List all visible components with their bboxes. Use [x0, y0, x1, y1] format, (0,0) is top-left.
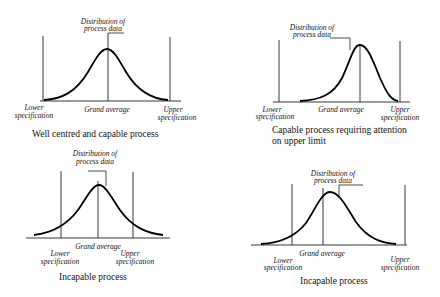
upper-spec-label-line2: specification	[158, 113, 197, 122]
distribution-curve	[34, 185, 163, 235]
distribution-leader	[339, 185, 363, 198]
caption-line1: Capable process requiring attention	[272, 125, 407, 135]
upper-spec-label-line2: specification	[381, 113, 420, 122]
lower-spec-label-line2: specification	[15, 111, 54, 120]
grand-average-label: Grand average	[299, 249, 345, 258]
grand-average-label: Grand average	[318, 105, 364, 114]
caption-line1: Well centred and capable process	[32, 129, 159, 139]
lower-spec-label-line2: specification	[41, 257, 80, 266]
distribution-label-line2: process data	[75, 157, 114, 166]
lower-spec-label-line2: specification	[256, 112, 295, 121]
distribution-curve	[44, 49, 168, 100]
distribution-leader	[330, 38, 350, 50]
distribution-leader	[88, 171, 106, 186]
grand-average-label: Grand average	[84, 105, 130, 114]
panel-incapable-process-2: Distribution of process data Grand avera…	[251, 169, 419, 286]
panel-attention-upper-limit: Distribution of process data Lower speci…	[256, 23, 420, 146]
distribution-label-line2: process data	[83, 24, 122, 33]
distribution-label-line2: process data	[313, 176, 352, 185]
lower-spec-label-line2: specification	[264, 263, 303, 272]
caption-line2: on upper limit	[272, 136, 326, 146]
grand-average-label: Grand average	[75, 242, 121, 251]
distribution-curve	[300, 45, 398, 101]
panel-well-centred: Distribution of process data Lower speci…	[15, 17, 197, 139]
process-capability-diagram: Distribution of process data Lower speci…	[0, 0, 440, 297]
upper-spec-label-line2: specification	[381, 263, 420, 272]
panel-incapable-process-1: Distribution of process data Grand avera…	[26, 149, 170, 282]
distribution-label-line2: process data	[292, 30, 331, 39]
caption-line1: Incapable process	[300, 276, 368, 286]
upper-spec-label-line2: specification	[116, 257, 155, 266]
distribution-curve	[261, 192, 396, 244]
caption-line1: Incapable process	[59, 272, 127, 282]
